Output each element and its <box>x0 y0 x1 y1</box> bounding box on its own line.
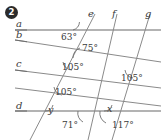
line-label-g: g <box>145 9 151 19</box>
line-b-underline <box>15 40 27 42</box>
arc-71 <box>78 111 83 122</box>
geometry-figure-root: 2 a b c d e f g 63° 75° 105° 105° <box>0 0 161 140</box>
angle-105-lower-left: 105° <box>55 88 77 97</box>
line-unlabeled-parallel-to-c <box>15 88 161 106</box>
angle-105-right: 105° <box>121 74 143 83</box>
line-label-f: f <box>112 9 116 19</box>
arc-117 <box>100 111 106 123</box>
angle-63: 63° <box>61 33 77 42</box>
line-label-d: d <box>16 101 22 111</box>
line-label-b: b <box>16 30 22 40</box>
angle-105-upper-left: 105° <box>62 63 84 72</box>
angle-117: 117° <box>112 121 134 130</box>
angle-variable-x: x <box>107 104 112 114</box>
angle-71: 71° <box>62 121 78 130</box>
line-label-c: c <box>16 59 22 69</box>
angle-75: 75° <box>82 44 98 53</box>
line-label-e: e <box>88 9 94 19</box>
arc-63 <box>73 22 80 30</box>
line-label-a: a <box>16 19 22 29</box>
line-c-underline <box>15 70 27 72</box>
angle-variable-y: y <box>48 105 53 115</box>
